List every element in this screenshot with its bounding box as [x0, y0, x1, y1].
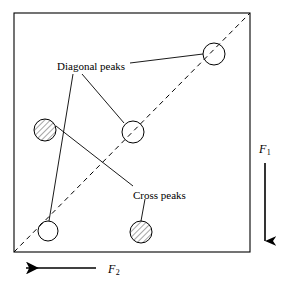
nmr-spectrum-figure: Diagonal peaks Cross peaks F1 F2 [0, 0, 285, 287]
cross-peak-left [34, 119, 56, 141]
cross-peaks-label: Cross peaks [133, 190, 186, 201]
f2-axis-label: F2 [108, 263, 119, 275]
f2-axis-label-text: F [108, 262, 115, 276]
diagonal-peak-center [122, 121, 144, 143]
diagonal-peak-top-right [203, 43, 225, 65]
f1-axis-label: F1 [259, 143, 270, 155]
diagonal-peaks-label: Diagonal peaks [57, 61, 125, 72]
f1-axis-label-subscript: 1 [267, 148, 271, 157]
f1-axis-label-text: F [259, 142, 266, 156]
figure-canvas [0, 0, 285, 287]
f2-axis-label-subscript: 2 [116, 268, 120, 277]
cross-peak-bottom [130, 221, 152, 243]
diagonal-peak-bottom-left [38, 221, 58, 241]
